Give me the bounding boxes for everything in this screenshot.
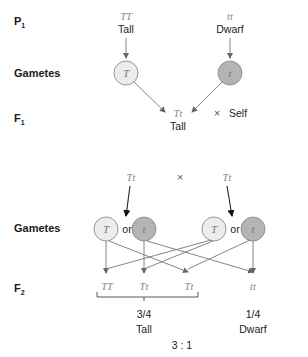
p1-label: P1 xyxy=(14,15,25,29)
f2-genotype-3: Tt xyxy=(185,281,195,292)
gametes-label-1: Gametes xyxy=(14,67,60,79)
or-label-left: or xyxy=(122,223,132,235)
monohybrid-cross-diagram: P1 Gametes F1 Gametes F2 TT Tall tt Dwar… xyxy=(0,0,308,357)
cross2-symbol: × xyxy=(177,171,183,183)
phenotypic-ratio: 3 : 1 xyxy=(172,339,193,351)
dwarf-label: Dwarf xyxy=(239,323,267,335)
punnett-lines xyxy=(106,240,253,273)
f2-genotype-1: TT xyxy=(101,281,114,292)
svg-text:T: T xyxy=(103,223,110,235)
f2-label: F2 xyxy=(14,282,25,296)
gametes-label-2: Gametes xyxy=(14,222,60,234)
gamete-T-2a: T xyxy=(94,217,118,241)
p1-parent-dwarf: tt Dwarf xyxy=(216,11,244,35)
svg-text:T: T xyxy=(123,67,130,79)
arrow-cross2-right xyxy=(227,186,232,216)
gamete-t-1: t xyxy=(218,61,242,85)
cross-symbol-self: × xyxy=(214,107,220,119)
tall-label: Tall xyxy=(136,323,152,335)
f2-genotype-2: Tt xyxy=(140,281,150,292)
genotype-TT: TT xyxy=(120,11,133,22)
svg-text:T: T xyxy=(211,223,218,235)
gamete-T-1: T xyxy=(114,61,138,85)
gamete-t-2b: t xyxy=(241,217,265,241)
or-label-right: or xyxy=(230,223,240,235)
dwarf-fraction: 1/4 xyxy=(246,308,261,320)
tall-fraction: 3/4 xyxy=(137,308,152,320)
self-label: Self xyxy=(229,107,247,119)
phenotype-tall: Tall xyxy=(118,23,134,35)
phenotype-dwarf: Dwarf xyxy=(216,23,244,35)
gamete-T-2b: T xyxy=(202,217,226,241)
f2-genotype-4: tt xyxy=(250,281,257,292)
f1-genotype: Tt xyxy=(174,108,184,119)
arrow-cross2-left xyxy=(126,186,130,216)
genotype-tt: tt xyxy=(227,11,234,22)
gamete-t-2a: t xyxy=(132,217,156,241)
p1-parent-tall: TT Tall xyxy=(118,11,134,35)
f1-phenotype: Tall xyxy=(170,120,186,132)
cross2-left-genotype: Tt xyxy=(127,172,137,183)
tall-bracket xyxy=(97,292,198,301)
f1-label: F1 xyxy=(14,112,25,126)
cross2-right-genotype: Tt xyxy=(223,172,233,183)
arrow-gamete-T-to-f1 xyxy=(134,82,165,112)
